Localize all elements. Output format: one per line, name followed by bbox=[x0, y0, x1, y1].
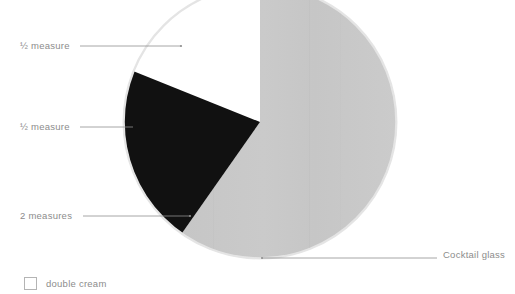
legend-label-double-cream: double cream bbox=[46, 278, 107, 289]
leader-dot-cocktail-glass bbox=[261, 257, 263, 259]
legend-swatch-double-cream bbox=[24, 277, 37, 290]
callout-cream-top-label: ½ measure bbox=[20, 40, 70, 51]
diagram-canvas: ½ measure ½ measure 2 measures Cocktail … bbox=[0, 0, 515, 294]
callout-measures-label: 2 measures bbox=[20, 210, 72, 221]
pie-chart-graphic bbox=[0, 0, 515, 294]
leader-dot-cream-top bbox=[180, 45, 182, 47]
callout-cocktail-glass-label: Cocktail glass bbox=[443, 249, 505, 260]
callout-cream-mid-label: ½ measure bbox=[20, 121, 70, 132]
glass-streak-a bbox=[309, 0, 310, 258]
leader-dot-measures bbox=[189, 215, 191, 217]
legend: double cream bbox=[24, 277, 107, 290]
glass-streak-b bbox=[340, 0, 341, 258]
